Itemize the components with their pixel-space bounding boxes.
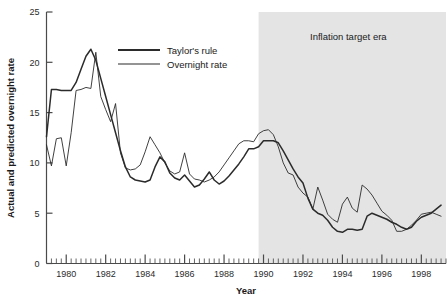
y-tick-label: 15 [29,108,39,118]
x-tick-label: 1980 [56,269,76,279]
y-axis-tick-labels: 0510152025 [29,7,39,269]
y-tick-label: 0 [34,259,39,269]
legend-label-overnight-rate: Overnight rate [167,59,227,70]
x-tick-label: 1990 [253,269,273,279]
y-tick-label: 5 [34,209,39,219]
line-chart: Inflation target era 0510152025 19801982… [0,0,447,301]
x-tick-label: 1998 [411,269,431,279]
x-tick-label: 1996 [372,269,392,279]
x-tick-label: 1994 [332,269,352,279]
inflation-target-era-label: Inflation target era [310,31,387,42]
x-tick-label: 1992 [293,269,313,279]
x-tick-label: 1984 [135,269,155,279]
x-tick-label: 1988 [214,269,234,279]
x-axis-title: Year [236,285,256,296]
chart-figure: Inflation target era 0510152025 19801982… [0,0,447,301]
x-axis-tick-labels: 1980198219841986198819901992199419961998 [56,269,431,279]
legend-label-taylors-rule: Taylor's rule [167,45,217,56]
legend: Taylor's rule Overnight rate [118,45,227,70]
x-tick-label: 1986 [175,269,195,279]
shaded-era-region [259,12,446,264]
y-axis-title: Actual and predicted overnight rate [5,58,16,218]
y-tick-label: 20 [29,58,39,68]
y-tick-label: 10 [29,158,39,168]
y-axis-ticks [47,12,53,264]
x-tick-label: 1982 [96,269,116,279]
y-tick-label: 25 [29,7,39,17]
